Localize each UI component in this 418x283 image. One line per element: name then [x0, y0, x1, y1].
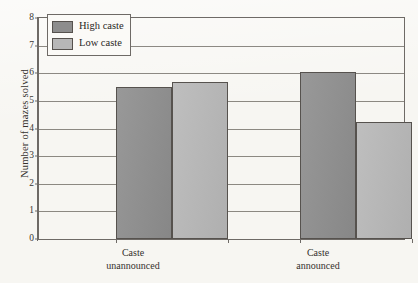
legend-item-high-caste: High caste	[52, 18, 124, 35]
y-tick-mark-4	[35, 128, 39, 129]
y-tick-label-8: 8	[29, 13, 34, 23]
bar-low-caste-1	[356, 122, 412, 239]
x-axis-category-label-1: Caste announced	[243, 246, 393, 272]
bar-high-caste-0	[116, 87, 172, 239]
legend-swatch-low-caste	[52, 38, 73, 50]
x-tick-mark-0-0	[116, 239, 117, 243]
y-tick-label-0: 0	[29, 234, 34, 244]
x-tick-mark-0-1	[228, 239, 229, 243]
chart-legend: High caste Low caste	[47, 14, 131, 56]
y-tick-mark-0	[35, 239, 39, 240]
y-tick-label-3: 3	[29, 151, 34, 161]
y-tick-mark-3	[35, 156, 39, 157]
y-tick-mark-8	[35, 18, 39, 19]
category-label-line-1: Caste	[58, 246, 208, 259]
y-tick-label-7: 7	[29, 41, 34, 51]
y-tick-mark-2	[35, 183, 39, 184]
y-tick-mark-5	[35, 100, 39, 101]
legend-item-low-caste: Low caste	[52, 35, 124, 52]
y-tick-label-2: 2	[29, 179, 34, 189]
legend-label-low-caste: Low caste	[79, 38, 122, 49]
category-label-line-1: Caste	[243, 246, 393, 259]
legend-swatch-high-caste	[52, 21, 73, 33]
y-axis-title: Number of mazes solved	[19, 24, 30, 224]
y-tick-label-1: 1	[29, 207, 34, 217]
x-tick-mark-1-0	[300, 239, 301, 243]
legend-label-high-caste: High caste	[79, 21, 124, 32]
bar-low-caste-0	[172, 82, 228, 239]
category-label-line-2: announced	[243, 259, 393, 272]
x-axis-category-label-0: Caste unannounced	[58, 246, 208, 272]
category-label-line-2: unannounced	[58, 259, 208, 272]
bar-chart-figure: Number of mazes solved 012345678 High ca…	[0, 0, 418, 283]
y-tick-label-4: 4	[29, 124, 34, 134]
y-tick-mark-7	[35, 45, 39, 46]
x-tick-mark-1-1	[412, 239, 413, 243]
bar-high-caste-1	[300, 72, 356, 239]
y-tick-label-5: 5	[29, 96, 34, 106]
y-tick-mark-1	[35, 211, 39, 212]
y-tick-mark-6	[35, 73, 39, 74]
y-tick-label-6: 6	[29, 69, 34, 79]
